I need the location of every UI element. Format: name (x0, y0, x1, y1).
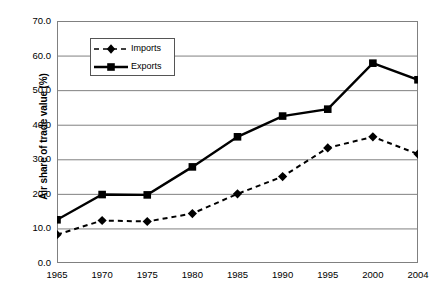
data-point-imports-1965 (57, 230, 62, 239)
data-point-imports-2000 (368, 132, 377, 141)
x-axis-tick-label: 1965 (37, 270, 77, 280)
y-axis-tick-label: 10.0 (5, 223, 51, 233)
data-point-imports-1990 (278, 172, 287, 181)
data-point-exports-1975 (143, 191, 151, 199)
x-axis-tick-label: 1980 (172, 270, 212, 280)
legend-item-exports: Exports (91, 58, 174, 75)
data-point-exports-1990 (279, 112, 287, 120)
y-axis-tick-label: 0.0 (5, 258, 51, 268)
x-axis-tick-label: 2000 (353, 270, 393, 280)
chart-legend: Imports Exports (90, 38, 175, 76)
x-axis-tick-label: 1970 (82, 270, 122, 280)
legend-label-imports: Imports (131, 44, 161, 53)
x-axis-tick-label: 1990 (263, 270, 303, 280)
x-axis-tick-labels: 196519701975198019851990199520002004 (57, 270, 418, 286)
y-axis-tick-label: 20.0 (5, 189, 51, 199)
data-point-exports-1965 (57, 216, 61, 224)
y-axis-tick-label: 30.0 (5, 154, 51, 164)
y-axis-tick-label: 50.0 (5, 85, 51, 95)
x-axis-tick-label: 1985 (218, 270, 258, 280)
data-point-exports-1980 (189, 163, 197, 171)
y-axis-tick-labels: 0.010.020.030.040.050.060.070.0 (0, 21, 51, 263)
legend-item-imports: Imports (91, 40, 174, 57)
y-axis-tick-label: 60.0 (5, 51, 51, 61)
data-point-exports-1995 (324, 105, 332, 113)
y-axis-tick-label: 70.0 (5, 16, 51, 26)
data-point-imports-1975 (143, 217, 152, 226)
legend-label-exports: Exports (131, 62, 162, 71)
data-point-imports-2004 (413, 150, 418, 159)
data-point-imports-1980 (188, 209, 197, 218)
data-point-exports-1970 (98, 191, 106, 199)
y-axis-tick-label: 40.0 (5, 120, 51, 130)
legend-swatch-exports-icon (91, 60, 131, 74)
x-axis-tick-label: 1995 (308, 270, 348, 280)
data-point-imports-1995 (323, 143, 332, 152)
data-point-imports-1970 (98, 216, 107, 225)
data-point-exports-2004 (414, 76, 418, 84)
x-axis-tick-label: 1975 (127, 270, 167, 280)
series-line-imports (57, 137, 418, 235)
data-point-exports-1985 (234, 133, 242, 141)
x-axis-tick-label: 2004 (398, 270, 438, 280)
data-point-imports-1985 (233, 189, 242, 198)
data-point-exports-2000 (369, 59, 377, 67)
chart-figure: Air share of trade value (%) 0.010.020.0… (0, 0, 439, 304)
legend-swatch-imports-icon (91, 42, 131, 56)
